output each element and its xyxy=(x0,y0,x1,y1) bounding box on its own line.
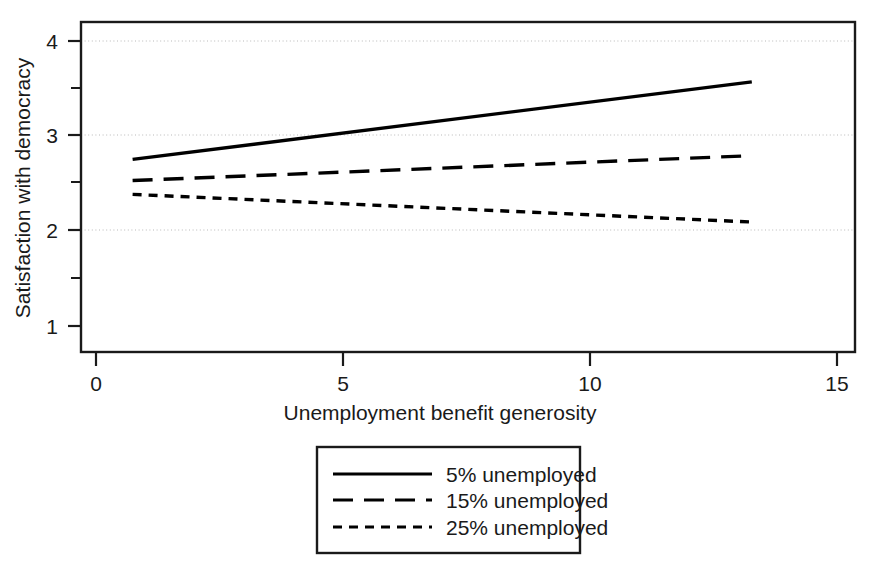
chart-figure: 4 3 2 1 Satisfaction with democracy 0 5 … xyxy=(0,0,878,578)
gridlines xyxy=(81,41,855,230)
y-tick-label-3: 3 xyxy=(46,124,58,147)
x-tick-label-0: 0 xyxy=(90,372,102,395)
x-tick-label-15: 15 xyxy=(825,372,848,395)
legend-label-15-percent: 15% unemployed xyxy=(446,489,608,512)
x-tick-label-10: 10 xyxy=(578,372,601,395)
series-line-15-percent xyxy=(133,156,752,181)
line-chart: 4 3 2 1 Satisfaction with democracy 0 5 … xyxy=(0,0,878,578)
x-axis-tick-labels: 0 5 10 15 xyxy=(90,372,849,395)
series-line-5-percent xyxy=(133,82,752,159)
x-axis-title: Unemployment benefit generosity xyxy=(284,401,597,424)
chart-legend: 5% unemployed 15% unemployed 25% unemplo… xyxy=(317,447,608,553)
legend-label-5-percent: 5% unemployed xyxy=(446,463,597,486)
plot-frame xyxy=(81,22,855,352)
x-axis-ticks xyxy=(96,352,837,366)
y-tick-label-4: 4 xyxy=(46,30,58,53)
series-line-25-percent xyxy=(133,194,752,222)
data-series xyxy=(133,82,752,222)
y-tick-label-1: 1 xyxy=(46,315,58,338)
legend-label-25-percent: 25% unemployed xyxy=(446,516,608,539)
x-tick-label-5: 5 xyxy=(337,372,349,395)
y-axis-tick-labels: 4 3 2 1 xyxy=(46,30,58,338)
y-axis-title: Satisfaction with democracy xyxy=(11,57,34,318)
y-axis-ticks xyxy=(68,41,81,326)
y-tick-label-2: 2 xyxy=(46,219,58,242)
